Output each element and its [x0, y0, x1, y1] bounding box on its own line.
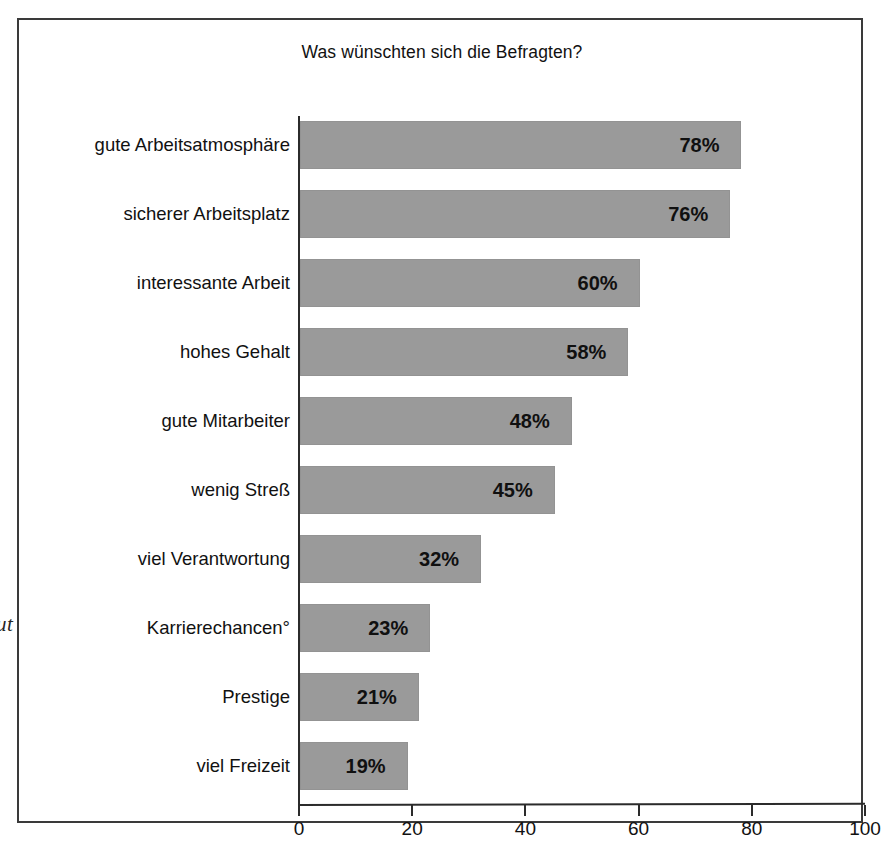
page-bleed-text-fragment: ut — [0, 612, 13, 637]
x-axis-tick-mark — [864, 805, 866, 816]
bar-row[interactable]: 23% — [300, 604, 430, 652]
bar-value-label: 23% — [368, 604, 408, 652]
category-label: Karrierechancen° — [30, 604, 290, 652]
x-axis-tick-label: 0 — [294, 818, 305, 840]
bar-row[interactable]: 58% — [300, 328, 628, 376]
category-label-wrap: viel Verantwortung — [28, 535, 290, 583]
bar-value-label: 48% — [510, 397, 550, 445]
category-label: viel Freizeit — [30, 742, 290, 790]
category-label-wrap: interessante Arbeit — [28, 259, 290, 307]
x-axis-tick-label: 100 — [849, 818, 881, 840]
bar-row[interactable]: 45% — [300, 466, 555, 514]
x-axis-tick-mark — [638, 805, 640, 816]
bar-row[interactable]: 48% — [300, 397, 572, 445]
category-label-wrap: gute Mitarbeiter — [28, 397, 290, 445]
bar[interactable] — [300, 604, 430, 652]
category-label-wrap: Karrierechancen° — [28, 604, 290, 652]
x-axis-tick-mark — [524, 805, 526, 816]
category-label-wrap: sicherer Arbeitsplatz — [28, 190, 290, 238]
x-axis-tick-mark — [411, 805, 413, 816]
plot-area: 78%gute Arbeitsatmosphäre76%sicherer Arb… — [19, 20, 865, 825]
bar-value-label: 32% — [419, 535, 459, 583]
category-label: sicherer Arbeitsplatz — [30, 190, 290, 238]
bar-value-label: 45% — [493, 466, 533, 514]
category-label-wrap: viel Freizeit — [28, 742, 290, 790]
category-label-wrap: wenig Streß — [28, 466, 290, 514]
horizontal-axis-line — [298, 803, 865, 806]
bar[interactable] — [300, 121, 741, 169]
bar-row[interactable]: 78% — [300, 121, 741, 169]
category-label: wenig Streß — [30, 466, 290, 514]
chart-frame: Was wünschten sich die Befragten? 78%gut… — [17, 18, 863, 823]
bar-row[interactable]: 76% — [300, 190, 730, 238]
bar[interactable] — [300, 190, 730, 238]
bar-row[interactable]: 32% — [300, 535, 481, 583]
category-label: viel Verantwortung — [30, 535, 290, 583]
category-label-wrap: hohes Gehalt — [28, 328, 290, 376]
bar-value-label: 58% — [566, 328, 606, 376]
category-label: hohes Gehalt — [30, 328, 290, 376]
x-axis-tick-label: 40 — [515, 818, 536, 840]
x-axis-tick-mark — [751, 805, 753, 816]
bar-row[interactable]: 60% — [300, 259, 640, 307]
category-label: Prestige — [30, 673, 290, 721]
x-axis-tick-mark — [298, 805, 300, 816]
x-axis-tick-label: 80 — [741, 818, 762, 840]
category-label: gute Arbeitsatmosphäre — [30, 121, 290, 169]
bar-value-label: 78% — [679, 121, 719, 169]
category-label: interessante Arbeit — [30, 259, 290, 307]
x-axis-tick-label: 20 — [402, 818, 423, 840]
category-label: gute Mitarbeiter — [30, 397, 290, 445]
bar-row[interactable]: 21% — [300, 673, 419, 721]
bar-value-label: 21% — [357, 673, 397, 721]
category-label-wrap: gute Arbeitsatmosphäre — [28, 121, 290, 169]
bar-value-label: 76% — [668, 190, 708, 238]
bar-row[interactable]: 19% — [300, 742, 408, 790]
x-axis-tick-label: 60 — [628, 818, 649, 840]
bar-value-label: 60% — [578, 259, 618, 307]
category-label-wrap: Prestige — [28, 673, 290, 721]
bar-value-label: 19% — [346, 742, 386, 790]
